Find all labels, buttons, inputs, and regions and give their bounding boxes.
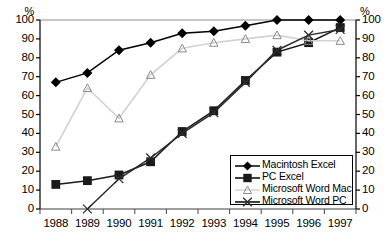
data-point-marker (241, 76, 250, 85)
data-point-marker (272, 15, 282, 25)
y-axis-right-tick: 50 (362, 109, 390, 121)
legend-marker-icon (234, 182, 261, 194)
y-axis-right-tick: 80 (362, 52, 390, 64)
y-axis-left-tick: 40 (8, 127, 34, 139)
y-axis-left-tick: 80 (8, 52, 34, 64)
data-point-marker (51, 77, 61, 87)
y-axis-left-tick: 30 (8, 146, 34, 158)
y-axis-left-tick: 10 (8, 184, 34, 196)
data-point-marker (240, 21, 250, 31)
data-point-marker (51, 180, 60, 189)
data-point-marker (177, 28, 187, 38)
y-axis-right-tick: 0 (362, 203, 390, 215)
legend-item-label: Macintosh Excel (262, 158, 335, 170)
legend-item-pc-excel[interactable]: PC Excel (231, 170, 354, 182)
y-axis-left-tick: 90 (8, 33, 34, 45)
chart-plot-area (0, 0, 391, 245)
series-line (56, 20, 340, 82)
y-axis-left-tick: 60 (8, 90, 34, 102)
data-point-marker (82, 68, 92, 78)
data-point-marker (114, 45, 124, 55)
data-point-marker (209, 26, 219, 36)
legend-item-microsoft-word-mac[interactable]: Microsoft Word Mac (231, 182, 354, 194)
y-axis-right-tick: 40 (362, 127, 390, 139)
data-point-marker (146, 38, 156, 48)
y-axis-left-tick: 50 (8, 109, 34, 121)
x-axis-tick-1997: 1997 (320, 218, 360, 230)
series-microsoft-word-mac (52, 31, 345, 150)
chart-container: % % 1009080706050403020100 1009080706050… (0, 0, 391, 245)
legend-marker-icon (234, 194, 261, 206)
legend-item-label: Microsoft Word PC (262, 194, 347, 206)
y-axis-right-tick: 60 (362, 90, 390, 102)
chart-legend: Macintosh ExcelPC ExcelMicrosoft Word Ma… (230, 155, 353, 205)
legend-marker-icon (234, 158, 261, 170)
y-axis-right-tick: 20 (362, 165, 390, 177)
legend-item-label: Microsoft Word Mac (262, 182, 352, 194)
y-axis-right-tick: 30 (362, 146, 390, 158)
legend-item-microsoft-word-pc[interactable]: Microsoft Word PC (231, 194, 354, 206)
y-axis-right-tick: 70 (362, 71, 390, 83)
legend-item-macintosh-excel[interactable]: Macintosh Excel (231, 158, 354, 170)
y-axis-left-tick: 70 (8, 71, 34, 83)
series-macintosh-excel (51, 15, 345, 87)
y-axis-left-tick: 0 (8, 203, 34, 215)
series-line (56, 35, 340, 147)
y-axis-left-tick: 100 (8, 14, 34, 26)
legend-marker-icon (234, 170, 261, 182)
data-point-marker (83, 176, 92, 185)
y-axis-right-tick: 90 (362, 33, 390, 45)
y-axis-left-tick: 20 (8, 165, 34, 177)
data-point-marker (304, 15, 314, 25)
y-axis-right-tick: 10 (362, 184, 390, 196)
y-axis-right-tick: 100 (362, 14, 390, 26)
legend-item-label: PC Excel (262, 170, 304, 182)
